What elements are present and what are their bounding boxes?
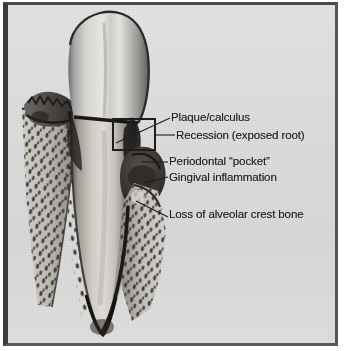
tooth-crown <box>68 12 148 123</box>
label-plaque: Plaque/calculus <box>171 111 250 123</box>
label-gingival-inflammation: Gingival inflammation <box>169 171 277 183</box>
label-bone-loss: Loss of alveolar crest bone <box>169 208 304 220</box>
figure-page: Plaque/calculus Recession (exposed root)… <box>0 0 352 351</box>
scan-frame: Plaque/calculus Recession (exposed root)… <box>3 2 338 346</box>
label-recession: Recession (exposed root) <box>176 129 305 141</box>
label-pocket: Periodontal “pocket” <box>169 155 270 167</box>
